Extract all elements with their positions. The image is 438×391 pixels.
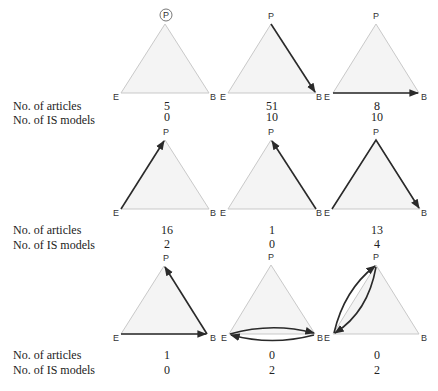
- label-articles: No. of articles: [13, 99, 81, 113]
- svg-text:P: P: [163, 127, 169, 137]
- label-is-models: No. of IS models: [13, 238, 95, 252]
- value-is-models: 0: [252, 237, 292, 251]
- value-articles: 1: [252, 223, 292, 237]
- svg-text:P: P: [268, 252, 274, 262]
- svg-text:P: P: [163, 253, 169, 263]
- value-articles: 16: [147, 223, 187, 237]
- svg-text:E: E: [324, 92, 330, 102]
- panel-r2c2: P E B: [220, 127, 322, 218]
- label-articles: No. of articles: [13, 348, 81, 362]
- svg-text:B: B: [317, 333, 323, 343]
- svg-text:E: E: [324, 208, 330, 218]
- svg-text:B: B: [421, 92, 427, 102]
- svg-text:B: B: [316, 208, 322, 218]
- value-is-models: 10: [357, 110, 397, 124]
- triangle-diagram-grid: P E B P E B P E B P E B P E B P E B: [0, 0, 438, 391]
- label-articles: No. of articles: [13, 223, 81, 237]
- value-is-models: 0: [147, 110, 187, 124]
- panel-r2c1: P E B: [113, 127, 216, 218]
- svg-text:P: P: [268, 11, 274, 21]
- svg-text:P: P: [373, 11, 379, 21]
- svg-text:E: E: [324, 333, 330, 343]
- svg-text:P: P: [268, 127, 274, 137]
- svg-text:B: B: [210, 208, 216, 218]
- panel-r1c1: P E B: [113, 9, 216, 102]
- value-is-models: 2: [252, 363, 292, 377]
- svg-text:P: P: [163, 10, 169, 20]
- svg-text:B: B: [421, 208, 427, 218]
- label-is-models: No. of IS models: [13, 363, 95, 377]
- value-is-models: 4: [357, 237, 397, 251]
- panel-r3c3: P E B: [324, 252, 427, 343]
- svg-text:E: E: [221, 333, 227, 343]
- value-articles: 1: [147, 348, 187, 362]
- value-articles: 0: [357, 348, 397, 362]
- panel-r2c3: P E B: [324, 127, 427, 218]
- value-articles: 13: [357, 223, 397, 237]
- panel-r3c2: P E B: [221, 252, 323, 343]
- label-is-models: No. of IS models: [13, 113, 95, 127]
- panel-r3c1: P E B: [113, 253, 216, 343]
- panel-r1c3: P E B: [324, 11, 427, 102]
- svg-text:B: B: [421, 333, 427, 343]
- svg-text:B: B: [210, 333, 216, 343]
- panel-r1c2: P E B: [220, 11, 322, 102]
- svg-text:B: B: [210, 92, 216, 102]
- value-is-models: 2: [147, 237, 187, 251]
- value-is-models: 2: [357, 363, 397, 377]
- svg-text:P: P: [373, 252, 379, 262]
- svg-text:B: B: [316, 92, 322, 102]
- svg-text:E: E: [113, 92, 119, 102]
- svg-text:E: E: [220, 208, 226, 218]
- svg-text:E: E: [220, 92, 226, 102]
- value-articles: 0: [252, 348, 292, 362]
- value-is-models: 10: [252, 110, 292, 124]
- svg-text:E: E: [113, 333, 119, 343]
- arrow-b-to-e: [231, 335, 314, 341]
- svg-text:P: P: [373, 127, 379, 137]
- value-is-models: 0: [147, 363, 187, 377]
- svg-text:E: E: [113, 208, 119, 218]
